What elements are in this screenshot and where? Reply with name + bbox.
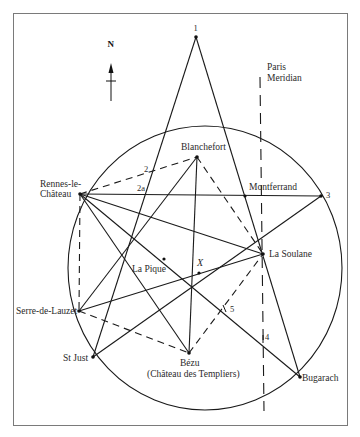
bezu-label-line1: Bézu: [180, 358, 200, 368]
paris-meridian-label-line1: Paris: [267, 62, 286, 72]
rennes-label-line1: Rennes-le-: [40, 179, 81, 189]
point-2-label: 2: [144, 164, 148, 174]
st-just-label: St Just: [63, 353, 88, 363]
serre-de-lauzet-label: Serre-de-Lauzet: [16, 306, 78, 316]
location-dots: [77, 35, 323, 379]
point-x-label: X: [196, 257, 204, 268]
solid-lines: [79, 37, 321, 377]
paris-meridian-line: [260, 77, 264, 411]
montferrand-label: Montferrand: [249, 182, 297, 192]
point-5-label: 5: [230, 304, 234, 314]
point-3-label: 3: [326, 190, 330, 200]
la-pique-label: La Pique: [132, 264, 166, 274]
point-2a-label: 2a: [137, 183, 145, 193]
point-4-label: 4: [265, 332, 270, 342]
rennes-label-line2: Château: [40, 189, 71, 199]
north-arrow-icon: [106, 63, 116, 101]
pentagram-map-diagram: N: [0, 0, 360, 437]
blanchefort-label: Blanchefort: [181, 142, 226, 152]
la-soulane-label: La Soulane: [269, 249, 312, 259]
bezu-label-line2: (Château des Templiers): [147, 369, 240, 380]
paris-meridian-label-line2: Meridian: [267, 73, 302, 83]
point-5-tick: [223, 305, 226, 312]
point-1-label: 1: [194, 23, 198, 33]
bugarach-label: Bugarach: [302, 373, 339, 383]
north-label: N: [108, 39, 115, 49]
